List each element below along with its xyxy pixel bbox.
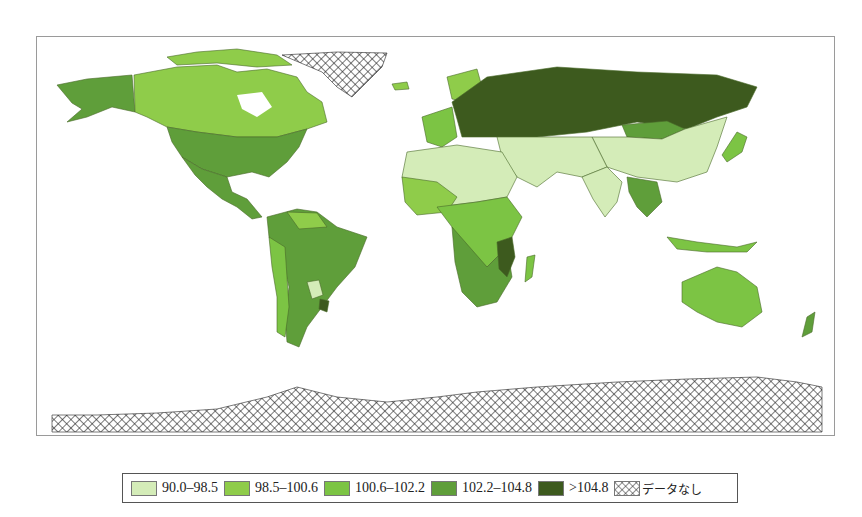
legend-swatch [131,481,157,496]
legend-swatch [324,481,350,496]
legend-item-over-104: >104.8 [538,480,608,496]
legend-label: 90.0–98.5 [162,480,218,496]
region-alaska [57,75,135,122]
region-se-asia [627,177,662,217]
legend-item-102-104: 102.2–104.8 [431,480,532,496]
legend-swatch [224,481,250,496]
region-canada [134,65,327,137]
region-uruguay [319,299,329,312]
crosshatch-swatch [614,481,640,496]
region-india [582,167,622,217]
region-antarctica [52,377,822,432]
legend-label: >104.8 [569,480,608,496]
legend-label: 100.6–102.2 [355,480,425,496]
legend-item-100-102: 100.6–102.2 [324,480,425,496]
region-west-europe [422,107,457,147]
map-svg [37,37,836,437]
region-madagascar [525,255,535,282]
legend-item-no-data: データなし [614,480,702,497]
legend-label: 102.2–104.8 [462,480,532,496]
region-australia [682,267,762,327]
region-new-zealand [802,312,815,337]
legend-item-98-100: 98.5–100.6 [224,480,318,496]
legend-swatch [538,481,564,496]
world-map [36,36,835,436]
region-indonesia [667,237,757,252]
legend-item-90-98: 90.0–98.5 [131,480,218,496]
legend-label: データなし [642,480,702,497]
legend-label: 98.5–100.6 [255,480,318,496]
legend-swatch [431,481,457,496]
legend: 90.0–98.5 98.5–100.6 100.6–102.2 102.2–1… [122,473,738,503]
region-japan [722,132,747,162]
region-canada-islands [167,49,292,67]
